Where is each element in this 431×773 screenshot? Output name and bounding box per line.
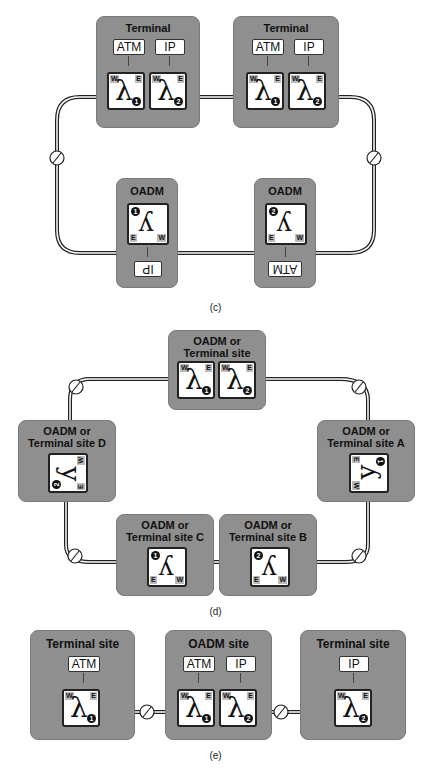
site-d: OADM or Terminal site D 2 λ EW [18, 420, 116, 502]
caption-c: (c) [0, 302, 431, 313]
lambda-icon: λ [185, 693, 203, 723]
ip-client: IP [226, 656, 256, 672]
caption-d: (d) [0, 606, 431, 617]
lambda-icon: λ [185, 365, 203, 395]
site-title-line2: Terminal site C [117, 531, 213, 543]
oadm-site-e: OADM site ATM IP WE λ 1 WE λ 2 [165, 630, 272, 740]
lambda-icon: λ [226, 365, 244, 395]
oadm-mux: 2 λ EW [250, 547, 290, 587]
mux-2: WE λ 2 [219, 689, 257, 727]
lambda-icon: λ [254, 76, 272, 106]
arrow [198, 673, 199, 683]
site-title-line1: OADM or [117, 519, 213, 531]
lambda-icon: λ [70, 693, 88, 723]
atm-client: ATM [68, 656, 100, 672]
arrow [128, 56, 129, 66]
oadm-mux: 2 λ EW [265, 203, 307, 245]
site-title: OADM [255, 185, 315, 197]
site-title: OADM site [166, 638, 271, 650]
site-b: OADM or Terminal site B 2 λ EW [219, 514, 317, 596]
arrow [147, 247, 148, 257]
oadm-site-c1: OADM 1 λ EW IP [116, 178, 178, 288]
lambda-icon: λ [261, 551, 277, 581]
terminal-site-e1: Terminal site ATM WE λ 1 [30, 630, 135, 740]
site-title-line2: Terminal site A [318, 437, 414, 449]
lambda-icon: λ [276, 207, 292, 237]
lambda-icon: λ [227, 693, 245, 723]
terminal-site-c2: Terminal ATM IP WE λ 1 WE λ 2 [233, 16, 339, 128]
mux-1: WE λ 1 [107, 72, 145, 110]
terminal-site-e2: Terminal site IP WE λ 2 [300, 630, 406, 740]
arrow [267, 56, 268, 66]
mux-1: WE λ 1 [62, 689, 100, 727]
site-title-line2: Terminal site B [220, 531, 316, 543]
arrow [308, 56, 309, 66]
lambda-icon: λ [157, 76, 175, 106]
lambda-icon: λ [52, 466, 82, 482]
site-title-line1: OADM or [318, 425, 414, 437]
site-top-d: OADM or Terminal site WE λ 1 WE λ 2 [168, 330, 266, 410]
mux-1: WE λ 1 [177, 361, 215, 399]
arrow [83, 673, 84, 683]
site-title-line1: OADM or [169, 335, 265, 347]
site-title-line2: Terminal site D [19, 437, 115, 449]
lambda-icon: λ [158, 551, 174, 581]
site-title: Terminal [234, 22, 338, 34]
arrow [169, 56, 170, 66]
site-title: Terminal [97, 22, 199, 34]
mux-2: WE λ 2 [149, 72, 187, 110]
ip-client: IP [134, 261, 162, 277]
arrow [240, 673, 241, 683]
oadm-mux: 2 λ EW [48, 453, 88, 493]
atm-client: ATM [268, 261, 302, 277]
oadm-mux: 1 λ EW [349, 453, 389, 493]
atm-client: ATM [113, 39, 145, 55]
lambda-icon: λ [138, 207, 154, 237]
terminal-site-c1: Terminal ATM IP WE λ 1 WE λ 2 [96, 16, 200, 128]
ip-client: IP [155, 39, 185, 55]
lambda-icon: λ [296, 76, 314, 106]
arrow [285, 247, 286, 257]
site-title: OADM [117, 185, 177, 197]
site-title: Terminal site [301, 638, 405, 650]
site-title-line2: Terminal site [169, 347, 265, 359]
lambda-icon: λ [355, 464, 385, 480]
mux-2: WE λ 2 [288, 72, 326, 110]
atm-client: ATM [183, 656, 215, 672]
oadm-site-c2: OADM 2 λ EW ATM [254, 178, 316, 288]
oadm-mux: 1 λ EW [147, 547, 187, 587]
mux-1: WE λ 1 [177, 689, 215, 727]
site-title-line1: OADM or [19, 425, 115, 437]
mux-1: WE λ 1 [246, 72, 284, 110]
lambda-icon: λ [342, 693, 360, 723]
arrow [353, 673, 354, 683]
oadm-mux: 1 λ EW [127, 203, 169, 245]
lambda-icon: λ [115, 76, 133, 106]
ip-client: IP [294, 39, 324, 55]
site-a: OADM or Terminal site A 1 λ EW [317, 420, 415, 502]
mux-2: WE λ 2 [218, 361, 256, 399]
site-title-line1: OADM or [220, 519, 316, 531]
ip-client: IP [339, 656, 369, 672]
caption-e: (e) [0, 750, 431, 761]
site-c: OADM or Terminal site C 1 λ EW [116, 514, 214, 596]
atm-client: ATM [252, 39, 284, 55]
mux-2: WE λ 2 [334, 689, 372, 727]
site-title: Terminal site [31, 638, 134, 650]
